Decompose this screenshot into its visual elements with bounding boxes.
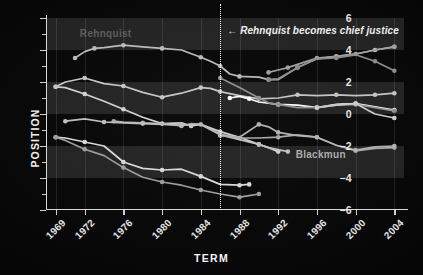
data-point <box>315 105 320 110</box>
data-point <box>392 116 397 121</box>
data-point <box>266 70 271 75</box>
y-minor-tick <box>42 66 46 67</box>
y-tick-label--6: −6 <box>332 204 352 216</box>
x-tick-2004 <box>394 210 395 215</box>
y-tick-2 <box>40 82 46 83</box>
chart-screenshot: 6420−2−4−6 19691972197619801984198819921… <box>0 0 423 275</box>
y-tick-6 <box>40 18 46 19</box>
data-point <box>286 65 291 70</box>
data-point <box>228 96 233 101</box>
x-axis-line <box>46 209 408 210</box>
data-point <box>102 120 107 125</box>
x-tick-1988 <box>240 210 241 215</box>
x-tick-1980 <box>162 210 163 215</box>
data-point <box>315 135 320 140</box>
data-point <box>373 59 378 64</box>
series-line <box>114 121 395 151</box>
data-point <box>247 182 252 187</box>
y-tick-label-2: 2 <box>332 76 352 88</box>
y-axis-title: POSITION <box>29 108 41 167</box>
data-point <box>237 195 242 200</box>
data-point <box>92 46 97 51</box>
y-minor-tick <box>42 162 46 163</box>
x-tick-label-1969: 1969 <box>43 217 67 241</box>
y-tick-label-4: 4 <box>332 44 352 56</box>
data-point <box>276 135 281 140</box>
x-tick-label-1992: 1992 <box>266 217 290 241</box>
x-tick-1984 <box>201 210 202 215</box>
data-point <box>334 56 339 61</box>
data-point <box>121 84 126 89</box>
data-point <box>392 144 397 149</box>
data-point <box>276 130 281 135</box>
data-point <box>121 160 126 165</box>
x-axis-title: TERM <box>0 252 423 264</box>
y-minor-tick <box>42 194 46 195</box>
y-minor-tick <box>42 98 46 99</box>
data-point <box>257 142 262 147</box>
y-tick-4 <box>40 50 46 51</box>
data-point <box>199 174 204 179</box>
data-point <box>257 96 262 101</box>
data-point <box>82 140 87 145</box>
data-point <box>160 95 165 100</box>
y-tick--4 <box>40 178 46 179</box>
x-tick-1969 <box>56 210 57 215</box>
x-tick-label-1972: 1972 <box>72 217 96 241</box>
data-point <box>121 43 126 48</box>
data-point <box>247 97 252 102</box>
data-point <box>373 93 378 98</box>
data-point <box>266 77 271 82</box>
data-point <box>53 135 58 140</box>
series-line <box>56 137 259 197</box>
data-point <box>199 55 204 60</box>
data-point <box>237 74 242 79</box>
x-tick-label-1976: 1976 <box>111 217 135 241</box>
data-point <box>199 85 204 90</box>
x-tick-label-1996: 1996 <box>305 217 329 241</box>
data-point <box>121 165 126 170</box>
data-point <box>140 121 145 126</box>
y-minor-tick <box>42 34 46 35</box>
data-point <box>63 119 68 124</box>
series-blackmun <box>63 119 290 154</box>
data-point <box>276 102 281 107</box>
data-point <box>257 122 262 127</box>
x-tick-label-2004: 2004 <box>382 217 406 241</box>
x-tick-label-2000: 2000 <box>343 217 367 241</box>
x-tick-1996 <box>317 210 318 215</box>
x-tick-1992 <box>278 210 279 215</box>
data-point <box>179 123 184 128</box>
data-point <box>73 56 78 61</box>
data-point <box>295 93 300 98</box>
y-axis-line <box>46 15 47 210</box>
x-tick-label-1988: 1988 <box>227 217 251 241</box>
data-point <box>199 188 204 193</box>
data-point <box>237 183 242 188</box>
data-point <box>257 192 262 197</box>
y-tick-label-0: 0 <box>332 108 352 120</box>
series-marshall <box>53 135 261 200</box>
x-tick-1976 <box>123 210 124 215</box>
data-point <box>286 149 291 154</box>
data-point <box>82 92 87 97</box>
data-point <box>160 180 165 185</box>
x-tick-1972 <box>85 210 86 215</box>
plot-area: 6420−2−4−6 19691972197619801984198819921… <box>46 18 404 210</box>
event-marker-line <box>220 4 221 210</box>
data-point <box>392 69 397 74</box>
data-point <box>353 101 358 106</box>
data-point <box>295 65 300 70</box>
y-tick-label--4: −4 <box>332 172 352 184</box>
y-tick--6 <box>40 210 46 211</box>
data-point <box>121 107 126 112</box>
data-point <box>392 45 397 50</box>
data-point <box>53 85 58 90</box>
data-point <box>353 148 358 153</box>
x-tick-2000 <box>356 210 357 215</box>
annotation-rehnquist-chief-justice: ← Rehnquist becomes chief justice <box>227 25 399 36</box>
data-point <box>82 76 87 81</box>
x-tick-label-1980: 1980 <box>150 217 174 241</box>
data-point <box>392 109 397 114</box>
data-point <box>334 93 339 98</box>
